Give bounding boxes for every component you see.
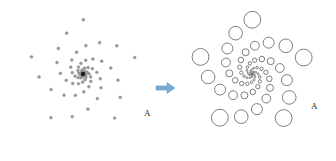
pattern-dot — [38, 76, 41, 79]
pattern-circle — [275, 64, 284, 73]
pattern-circle — [232, 78, 238, 84]
pattern-circle — [281, 75, 292, 86]
pattern-circle — [240, 81, 244, 85]
pattern-circle — [211, 109, 228, 126]
pattern-circle — [234, 110, 248, 124]
pattern-circle — [258, 76, 261, 79]
pattern-dot — [87, 85, 90, 88]
pattern-dot — [100, 86, 103, 89]
pattern-circle — [264, 70, 268, 74]
pattern-dot — [81, 81, 84, 84]
pattern-dot — [63, 94, 66, 97]
pattern-circle — [257, 73, 259, 75]
pattern-circle — [238, 65, 242, 69]
pattern-circle — [251, 69, 252, 70]
pattern-dot — [50, 88, 53, 91]
pattern-dot — [90, 80, 93, 83]
pattern-circle — [275, 110, 292, 127]
pattern-dot — [69, 66, 72, 69]
pattern-circle — [229, 91, 238, 100]
pattern-dot — [119, 96, 122, 99]
pattern-dot — [80, 62, 83, 65]
pattern-circle — [249, 77, 250, 78]
transformation-arrow — [156, 83, 175, 94]
pattern-dot — [91, 67, 94, 70]
spiral-diagram-svg: A A — [0, 0, 336, 161]
pattern-dot — [56, 61, 59, 64]
pattern-dot — [77, 76, 80, 79]
pattern-dot — [113, 117, 116, 120]
pattern-dot — [65, 79, 68, 82]
pattern-circle — [222, 58, 231, 67]
arrow-shape — [156, 83, 175, 94]
pattern-circle — [246, 77, 248, 79]
pattern-circle — [251, 76, 252, 77]
pattern-dot — [99, 77, 102, 80]
pattern-dot — [82, 18, 85, 21]
pattern-circle — [248, 62, 251, 65]
pattern-circle — [266, 84, 273, 91]
pattern-circle — [238, 57, 244, 63]
pattern-circle — [253, 67, 255, 69]
pattern-dot — [87, 108, 90, 111]
pattern-dot — [71, 71, 74, 74]
pattern-circle — [260, 67, 263, 70]
figure-canvas: A A — [0, 0, 336, 161]
pattern-dot — [75, 51, 78, 54]
pattern-circle — [267, 58, 274, 65]
pattern-dot — [91, 58, 94, 61]
pattern-circle — [250, 81, 253, 84]
pattern-circle — [247, 72, 248, 73]
pattern-circle — [295, 49, 312, 66]
pattern-circle — [282, 91, 296, 105]
pattern-circle — [229, 26, 243, 40]
pattern-dot — [71, 82, 74, 85]
source-point-pattern-panel — [30, 18, 136, 119]
pattern-dot — [133, 56, 136, 59]
pattern-circle — [192, 49, 209, 66]
pattern-circle — [243, 75, 246, 78]
pattern-circle — [263, 37, 274, 48]
pattern-circle — [251, 104, 262, 115]
pattern-dot — [87, 66, 90, 69]
pattern-circle — [244, 11, 261, 28]
pattern-circle — [253, 79, 255, 81]
pattern-circle — [254, 77, 255, 78]
pattern-dot — [84, 78, 87, 81]
pattern-circle — [255, 72, 256, 73]
pattern-dot — [59, 72, 62, 75]
pattern-circle — [250, 71, 251, 72]
pattern-dot — [65, 32, 68, 35]
pattern-circle — [258, 80, 261, 83]
pattern-circle — [262, 94, 271, 103]
pattern-circle — [201, 70, 215, 84]
pattern-dot — [109, 67, 112, 70]
pattern-dot — [88, 72, 91, 75]
pattern-circle — [254, 75, 255, 76]
pattern-dot — [77, 69, 80, 72]
pattern-dot — [71, 115, 74, 118]
pattern-center-marker — [81, 72, 85, 76]
pattern-circle — [266, 76, 272, 82]
pattern-circle — [253, 71, 254, 72]
pattern-circle — [259, 56, 265, 62]
pattern-circle — [250, 41, 259, 50]
pattern-dot — [100, 60, 103, 63]
pattern-circle — [248, 74, 249, 75]
pattern-dot — [84, 44, 87, 47]
pattern-dot — [84, 59, 87, 62]
pattern-circle — [215, 84, 226, 95]
pattern-circle — [226, 70, 233, 77]
pattern-circle — [250, 89, 256, 95]
pattern-dot — [74, 94, 77, 97]
pattern-circle — [241, 92, 248, 99]
pattern-dot — [115, 44, 118, 47]
pattern-center-marker — [251, 73, 253, 75]
pattern-dot — [96, 71, 99, 74]
pattern-circle — [279, 39, 293, 53]
pattern-circle — [246, 70, 248, 72]
pattern-dot — [30, 56, 33, 59]
pattern-dot — [77, 82, 80, 85]
pattern-dot — [77, 66, 80, 69]
pattern-dot — [98, 41, 101, 44]
